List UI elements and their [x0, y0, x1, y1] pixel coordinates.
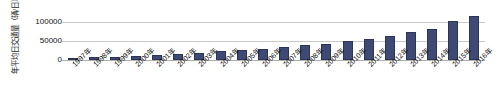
y-tick-label-100000: 100000 [16, 18, 62, 26]
y-axis-ticks: 100000 50000 0 [10, 0, 62, 101]
y-tick-label-0: 0 [16, 56, 62, 64]
y-tick-label-50000: 50000 [16, 37, 62, 45]
x-axis-labels: 1997年1998年1999年2000年2001年2002年2003年2004年… [62, 63, 485, 101]
